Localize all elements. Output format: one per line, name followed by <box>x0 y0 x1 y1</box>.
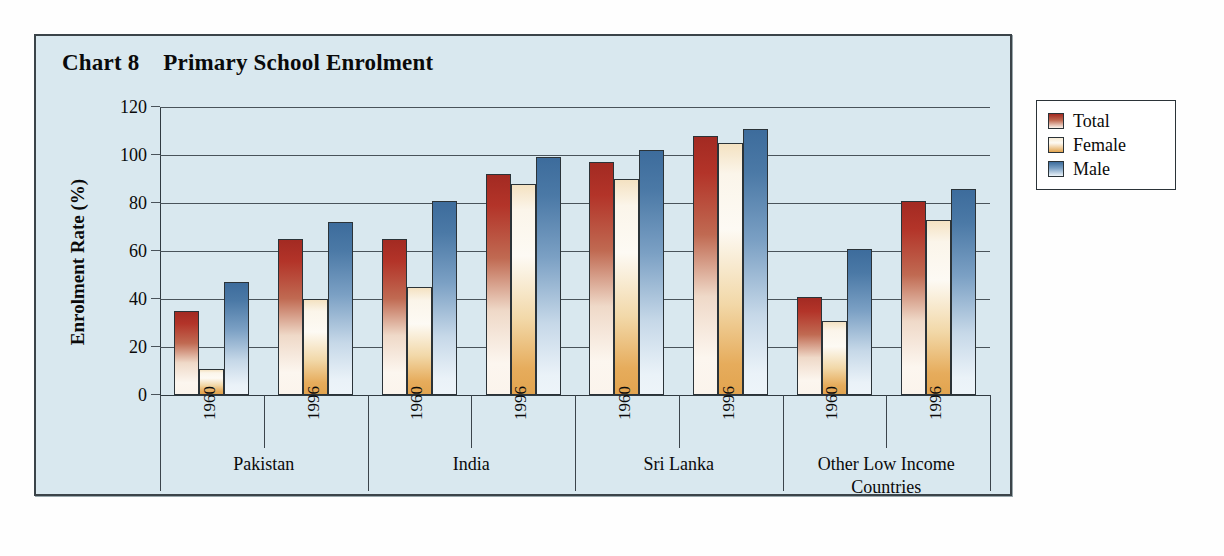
legend-item-label: Male <box>1073 159 1110 180</box>
bars-container <box>160 107 990 395</box>
bar-male <box>224 282 249 395</box>
bar-female <box>718 143 743 395</box>
x-axis-group-label: Pakistan <box>160 453 368 476</box>
page-root: Chart 8 Primary School Enrolment Enrolme… <box>0 0 1224 556</box>
x-axis-group-label: India <box>368 453 576 476</box>
legend-item-label: Total <box>1073 111 1110 132</box>
x-axis-group-separator <box>368 395 369 491</box>
bar-male <box>847 249 872 395</box>
legend-item-label: Female <box>1073 135 1126 156</box>
x-axis-year-separator <box>264 395 265 448</box>
x-axis-group-separator <box>160 395 161 491</box>
bar-total <box>174 311 199 395</box>
x-axis-year-label: 1960 <box>200 386 220 420</box>
bar-total <box>486 174 511 395</box>
legend-swatch-total <box>1048 113 1064 129</box>
y-tick-label: 100 <box>120 145 147 166</box>
bar-total <box>693 136 718 395</box>
y-tick-mark <box>151 202 160 203</box>
y-tick-mark <box>151 394 160 395</box>
y-tick-mark <box>151 250 160 251</box>
y-tick-label: 60 <box>129 241 147 262</box>
y-tick-mark <box>151 154 160 155</box>
legend-item: Male <box>1048 157 1175 181</box>
bar-total <box>382 239 407 395</box>
y-tick-label: 120 <box>120 97 147 118</box>
y-tick-mark <box>151 106 160 107</box>
legend-swatch-male <box>1048 161 1064 177</box>
y-tick-label: 40 <box>129 289 147 310</box>
legend: TotalFemaleMale <box>1036 100 1176 190</box>
bar-male <box>536 157 561 395</box>
x-axis-year-separator <box>679 395 680 448</box>
plot-area: 020406080100120 <box>160 107 990 395</box>
bar-female <box>926 220 951 395</box>
legend-item: Female <box>1048 133 1175 157</box>
legend-swatch-female <box>1048 137 1064 153</box>
x-axis-year-label: 1996 <box>511 386 531 420</box>
x-axis-group-separator <box>990 395 991 491</box>
x-axis-group-separator <box>575 395 576 491</box>
bar-female <box>407 287 432 395</box>
bar-female <box>822 321 847 395</box>
chart-panel: Chart 8 Primary School Enrolment Enrolme… <box>34 34 1012 496</box>
x-axis-year-separator <box>471 395 472 448</box>
bar-total <box>797 297 822 395</box>
x-axis-year-label: 1960 <box>615 386 635 420</box>
x-axis-year-separator <box>886 395 887 448</box>
bar-female <box>511 184 536 395</box>
x-axis-year-label: 1996 <box>926 386 946 420</box>
y-tick-label: 20 <box>129 337 147 358</box>
bar-female <box>303 299 328 395</box>
bar-male <box>639 150 664 395</box>
x-axis-group-label: Other Low Income Countries <box>783 453 991 498</box>
chart-title: Chart 8 Primary School Enrolment <box>62 50 433 76</box>
bar-male <box>328 222 353 395</box>
y-axis-title: Enrolment Rate (%) <box>67 132 89 392</box>
bar-total <box>589 162 614 395</box>
bar-male <box>743 129 768 395</box>
bar-total <box>278 239 303 395</box>
y-tick-mark <box>151 298 160 299</box>
x-axis-year-label: 1996 <box>719 386 739 420</box>
legend-item: Total <box>1048 109 1175 133</box>
y-tick-label: 0 <box>138 385 147 406</box>
x-axis-group-label: Sri Lanka <box>575 453 783 476</box>
x-axis-year-label: 1960 <box>407 386 427 420</box>
x-axis-year-label: 1960 <box>822 386 842 420</box>
y-tick-mark <box>151 346 160 347</box>
bar-male <box>951 189 976 395</box>
bar-male <box>432 201 457 395</box>
x-axis-year-label: 1996 <box>304 386 324 420</box>
bar-female <box>614 179 639 395</box>
y-tick-label: 80 <box>129 193 147 214</box>
bar-total <box>901 201 926 395</box>
